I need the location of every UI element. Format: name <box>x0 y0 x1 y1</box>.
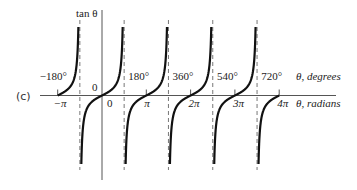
radian-tick-label: 3π <box>232 97 245 109</box>
degree-tick-label: 180° <box>128 70 149 82</box>
radian-tick-label: 0 <box>107 97 113 109</box>
radian-tick-label: 4π <box>277 97 289 109</box>
degree-tick-label: 360° <box>173 70 194 82</box>
degree-tick-label: 720° <box>261 70 282 82</box>
tan-graph: (c) tan θ 0 θ, degrees θ, radians −180°1… <box>0 0 357 190</box>
x-radians-label: θ, radians <box>296 97 341 109</box>
tan-branch <box>259 96 280 165</box>
x-degrees-label: θ, degrees <box>296 70 341 82</box>
axes <box>40 10 336 180</box>
radian-tick-label: −π <box>54 97 67 109</box>
radian-tick-label: π <box>144 97 150 109</box>
origin-label: 0 <box>92 81 98 93</box>
degree-tick-label: 540° <box>217 70 238 82</box>
y-axis-label: tan θ <box>76 7 97 19</box>
degree-tick-label: −180° <box>40 70 67 82</box>
tan-branch <box>58 27 79 96</box>
radian-tick-labels: −π0π2π3π4π <box>54 97 289 109</box>
panel-label: (c) <box>16 90 31 103</box>
radian-tick-label: 2π <box>189 97 201 109</box>
